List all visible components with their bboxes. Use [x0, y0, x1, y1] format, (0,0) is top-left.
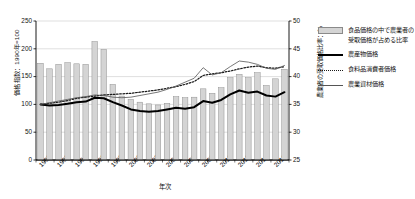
legend-swatch-thin-line-icon — [318, 80, 344, 89]
legend-swatch-thick-line-icon — [318, 50, 344, 59]
legend-item[interactable]: 農産物価格 — [318, 49, 415, 59]
legend-swatch-dotted-line-icon — [318, 65, 344, 74]
legend-item-label: 農産物価格 — [348, 49, 415, 59]
legend-item[interactable]: 農業資材価格 — [318, 79, 415, 89]
legend-swatch-bar-icon — [318, 26, 344, 35]
legend-item-label: 農業資材価格 — [348, 79, 415, 89]
legend-item-label: 食料品消費者価格 — [348, 64, 415, 74]
legend-item[interactable]: 食品価格の中で農業者の受取価格が占める比率 — [318, 25, 415, 44]
chart-legend: 食品価格の中で農業者の受取価格が占める比率農産物価格食料品消費者価格農業資材価格 — [318, 25, 415, 94]
chart-container: 価格指数：1990年=100 農業者の受取価格比率：％ 年次 050100150… — [0, 0, 415, 199]
legend-item[interactable]: 食料品消費者価格 — [318, 64, 415, 74]
legend-item-label: 食品価格の中で農業者の受取価格が占める比率 — [348, 25, 415, 44]
